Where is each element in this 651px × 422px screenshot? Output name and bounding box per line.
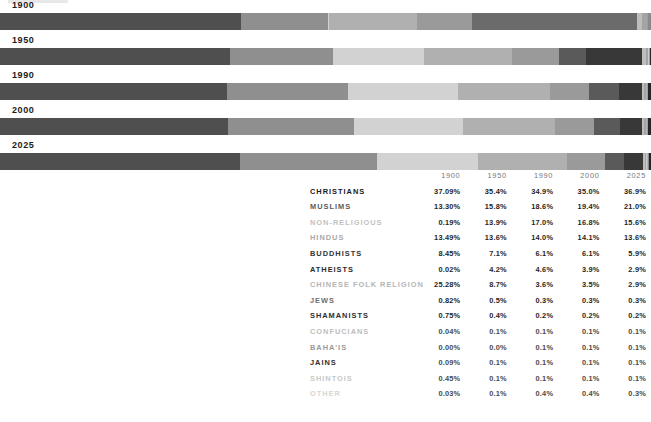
bar-segment [0,13,241,30]
table-body: CHRISTIANS37.09%35.4%34.9%35.0%36.9%MUSL… [310,184,646,402]
header-label-column [310,168,414,184]
bar-segment [354,118,463,135]
table-row: HINDUS13.49%13.6%14.0%14.1%13.6% [310,230,646,246]
cell-value: 0.3% [600,293,646,309]
bar-segment [417,13,472,30]
table-row: JAINS0.09%0.1%0.1%0.1%0.1% [310,355,646,371]
table-row: BAHA'IS0.00%0.0%0.1%0.1%0.1% [310,340,646,356]
cell-value: 5.9% [600,246,646,262]
cell-value: 0.45% [414,371,460,387]
bar-group-2000: 2000 [0,105,651,135]
bar-segment [472,13,637,30]
cell-value: 35.4% [460,184,506,200]
cell-value: 16.8% [553,215,599,231]
stacked-bars-panel: 19001950199020002025 [0,0,651,175]
cell-value: 0.3% [600,386,646,402]
bar-segment [241,13,328,30]
cell-value: 6.1% [507,246,553,262]
row-label-jews: JEWS [310,293,414,309]
table-row: BUDDHISTS8.45%7.1%6.1%6.1%5.9% [310,246,646,262]
bar-segment [458,83,549,100]
row-label-other: OTHER [310,386,414,402]
cell-value: 14.1% [553,230,599,246]
cell-value: 13.49% [414,230,460,246]
cell-value: 13.9% [460,215,506,231]
bar-segment [228,118,354,135]
table-row: SHINTOIS0.45%0.1%0.1%0.1%0.1% [310,371,646,387]
cell-value: 0.1% [553,340,599,356]
table-header-year-1990: 1990 [507,168,553,184]
cell-value: 0.2% [507,308,553,324]
row-label-shintois: SHINTOIS [310,371,414,387]
cell-value: 3.9% [553,262,599,278]
bar-track [0,13,651,30]
cell-value: 37.09% [414,184,460,200]
bar-year-label: 2025 [12,140,651,151]
cell-value: 0.1% [553,324,599,340]
table-row: JEWS0.82%0.5%0.3%0.3%0.3% [310,293,646,309]
cell-value: 0.82% [414,293,460,309]
cell-value: 0.5% [460,293,506,309]
bar-year-label: 1950 [12,35,651,46]
cell-value: 0.02% [414,262,460,278]
cell-value: 0.09% [414,355,460,371]
row-label-muslims: MUSLIMS [310,199,414,215]
bar-group-2025: 2025 [0,140,651,170]
cell-value: 0.1% [460,355,506,371]
bar-segment [329,13,417,30]
bar-segment [230,48,333,65]
table-header-year-2000: 2000 [553,168,599,184]
bar-segment [559,48,586,65]
cell-value: 3.5% [553,277,599,293]
table-row: ATHEISTS0.02%4.2%4.6%3.9%2.9% [310,262,646,278]
bar-segment [586,48,643,65]
table-header-row: 19001950199020002025 [310,168,646,184]
bar-group-1990: 1990 [0,70,651,100]
cell-value: 8.45% [414,246,460,262]
row-label-shamanists: SHAMANISTS [310,308,414,324]
cell-value: 0.4% [553,386,599,402]
cell-value: 0.1% [507,324,553,340]
cell-value: 0.1% [600,355,646,371]
bar-track [0,83,651,100]
cell-value: 2.9% [600,277,646,293]
cell-value: 0.75% [414,308,460,324]
row-label-confucians: CONFUCIANS [310,324,414,340]
cell-value: 0.1% [600,324,646,340]
table-row: SHAMANISTS0.75%0.4%0.2%0.2%0.2% [310,308,646,324]
bar-segment [227,83,348,100]
cell-value: 0.1% [600,371,646,387]
bar-year-label: 1990 [12,70,651,81]
bar-segment [555,118,595,135]
cell-value: 0.2% [553,308,599,324]
bar-segment [512,48,558,65]
table-header-year-2025: 2025 [600,168,646,184]
table-row: MUSLIMS13.30%15.8%18.6%19.4%21.0% [310,199,646,215]
bar-year-label: 2000 [12,105,651,116]
cell-value: 0.1% [553,371,599,387]
bar-group-1900: 1900 [0,0,651,30]
cell-value: 18.6% [507,199,553,215]
cell-value: 13.30% [414,199,460,215]
cell-value: 0.1% [507,355,553,371]
bar-segment [648,118,651,135]
bar-segment [619,83,642,100]
cell-value: 21.0% [600,199,646,215]
cell-value: 0.03% [414,386,460,402]
cell-value: 15.6% [600,215,646,231]
bar-year-label: 1900 [12,0,651,11]
bar-segment [0,153,240,170]
bar-segment [648,83,651,100]
cell-value: 0.1% [460,386,506,402]
cell-value: 36.9% [600,184,646,200]
cell-value: 3.6% [507,277,553,293]
row-label-hindus: HINDUS [310,230,414,246]
cell-value: 35.0% [553,184,599,200]
cell-value: 0.1% [600,340,646,356]
table-head: 19001950199020002025 [310,168,646,184]
cell-value: 0.2% [600,308,646,324]
bar-segment [333,48,423,65]
cell-value: 0.1% [553,355,599,371]
bar-segment [620,118,643,135]
cell-value: 0.1% [460,324,506,340]
